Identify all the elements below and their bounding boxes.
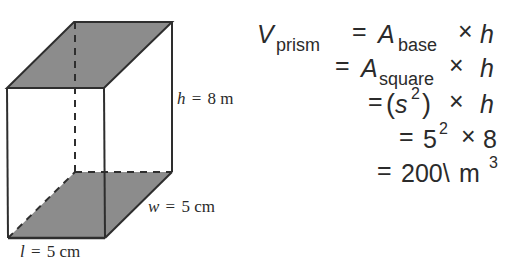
equals-sign: = xyxy=(399,122,414,150)
exponent: 2 xyxy=(411,85,420,102)
times-sign: × xyxy=(458,17,473,45)
equals-sign: = xyxy=(368,87,383,115)
equation-line-5: = 200\ m 3 xyxy=(377,154,498,187)
length-eq: = xyxy=(31,242,41,261)
length-var: l xyxy=(20,242,25,261)
height-var: h xyxy=(177,89,186,108)
area-subscript: base xyxy=(398,35,437,55)
unit-exponent: 3 xyxy=(489,154,498,171)
height-eq: = xyxy=(192,89,202,108)
height-symbol: h xyxy=(480,20,494,48)
side-symbol: s xyxy=(395,90,408,118)
width-value: 5 cm xyxy=(181,197,215,216)
equals-sign: = xyxy=(352,17,367,45)
top-face xyxy=(7,22,172,88)
height-label: h = 8 m xyxy=(177,89,234,108)
edge-front-right-vertical xyxy=(104,88,105,238)
open-paren: ( xyxy=(386,89,395,119)
width-var: w xyxy=(148,197,160,216)
volume-symbol: V xyxy=(257,20,276,48)
volume-subscript: prism xyxy=(276,35,320,55)
area-symbol: A xyxy=(376,20,395,48)
length-label: l = 5 cm xyxy=(20,242,80,261)
base-value: 5 xyxy=(423,125,437,153)
equation-line-3: = ( s 2 ) × h xyxy=(368,85,494,119)
exponent: 2 xyxy=(439,120,448,137)
result-unit: m xyxy=(459,159,480,187)
times-sign: × xyxy=(461,122,476,150)
result-value: 200\ xyxy=(401,159,450,187)
edge-front-left-vertical xyxy=(7,88,8,238)
volume-equation: V prism = A base × h = A square × h = ( … xyxy=(257,17,498,187)
times-sign: × xyxy=(449,51,464,79)
height-value: 8 xyxy=(483,125,497,153)
times-sign: × xyxy=(449,87,464,115)
area-symbol: A xyxy=(359,54,378,82)
width-eq: = xyxy=(166,197,176,216)
equals-sign: = xyxy=(335,51,350,79)
prism-volume-figure: h = 8 m w = 5 cm l = 5 cm V prism = A ba… xyxy=(0,0,507,263)
equation-line-2: = A square × h xyxy=(335,51,494,89)
close-paren: ) xyxy=(422,89,431,119)
height-value: 8 m xyxy=(208,89,234,108)
area-subscript: square xyxy=(379,69,434,89)
height-symbol: h xyxy=(480,90,494,118)
equation-line-1: V prism = A base × h xyxy=(257,17,494,55)
length-value: 5 cm xyxy=(47,242,81,261)
width-label: w = 5 cm xyxy=(148,197,215,216)
equation-line-4: = 5 2 × 8 xyxy=(399,120,497,153)
height-symbol: h xyxy=(480,54,494,82)
equals-sign: = xyxy=(377,156,392,184)
